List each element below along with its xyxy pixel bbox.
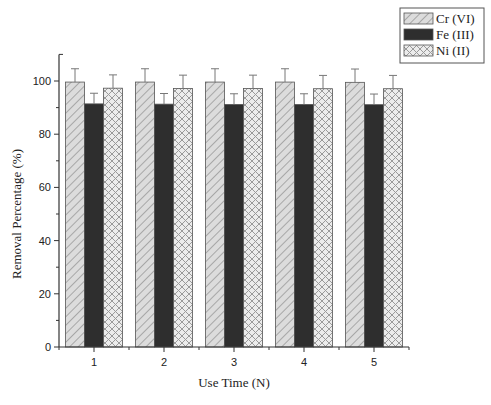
y-tick-label: 20 bbox=[39, 288, 51, 300]
x-axis-title: Use Time (N) bbox=[198, 375, 270, 390]
y-tick-label: 60 bbox=[39, 181, 51, 193]
y-tick-label: 40 bbox=[39, 235, 51, 247]
x-tick-label: 1 bbox=[91, 356, 97, 368]
bar bbox=[104, 88, 123, 347]
x-tick-label: 5 bbox=[371, 356, 377, 368]
bar-chart: 12345020406080100 Cr (VI)Fe (III)Ni (II)… bbox=[0, 0, 491, 405]
bar bbox=[136, 82, 155, 347]
y-axis-title: Removal Percentage (%) bbox=[9, 149, 24, 279]
bar bbox=[365, 105, 384, 347]
legend-swatch bbox=[404, 13, 433, 24]
bar bbox=[295, 104, 314, 347]
legend-label: Fe (III) bbox=[436, 27, 474, 42]
bar bbox=[174, 88, 193, 347]
bar bbox=[346, 82, 365, 347]
legend-label: Ni (II) bbox=[436, 43, 470, 58]
x-tick-label: 2 bbox=[161, 356, 167, 368]
bar bbox=[155, 104, 174, 347]
legend: Cr (VI)Fe (III)Ni (II) bbox=[400, 8, 484, 63]
legend-label: Cr (VI) bbox=[436, 11, 475, 26]
y-tick-label: 100 bbox=[33, 75, 51, 87]
legend-swatch bbox=[404, 45, 433, 56]
y-tick-label: 80 bbox=[39, 128, 51, 140]
bar bbox=[66, 82, 85, 347]
x-tick-label: 3 bbox=[231, 356, 237, 368]
bars-layer bbox=[66, 69, 403, 347]
legend-swatch bbox=[404, 29, 433, 40]
bar bbox=[384, 89, 403, 347]
bar bbox=[276, 82, 295, 347]
y-tick-label: 0 bbox=[45, 341, 51, 353]
bar bbox=[225, 104, 244, 347]
x-tick-label: 4 bbox=[301, 356, 307, 368]
bar bbox=[244, 88, 263, 347]
bar bbox=[206, 82, 225, 347]
bar bbox=[85, 104, 104, 347]
bar bbox=[314, 89, 333, 347]
